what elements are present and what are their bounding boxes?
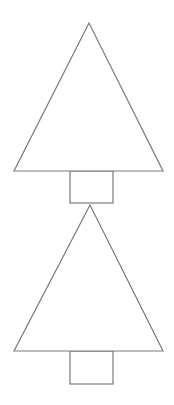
tree-1-triangle <box>14 23 163 171</box>
tree-2-triangle <box>14 205 163 351</box>
tree-1 <box>14 23 163 203</box>
tree-2 <box>14 205 163 384</box>
tree-2-trunk <box>70 351 113 384</box>
tree-1-trunk <box>70 171 113 203</box>
diagram-canvas <box>0 0 174 405</box>
